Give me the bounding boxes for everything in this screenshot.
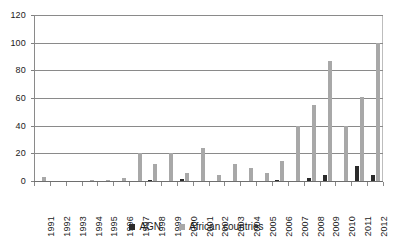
bar-african-countries [265, 173, 269, 181]
bar-group [304, 15, 320, 181]
bars-layer [34, 15, 383, 181]
bar-agn [148, 180, 152, 181]
legend-swatch-icon [179, 224, 185, 230]
bar-agn [323, 175, 327, 181]
bar-african-countries [249, 168, 253, 181]
bar-group [129, 15, 145, 181]
bar-african-countries [169, 153, 173, 181]
chart-legend: AGNAfrican countries [0, 222, 393, 232]
y-tick-label: 20 [16, 149, 26, 158]
y-tick-label: 120 [10, 11, 26, 20]
bar-african-countries [90, 180, 94, 181]
y-tick-label: 100 [10, 38, 26, 47]
bar-african-countries [153, 164, 157, 181]
bar-african-countries [42, 177, 46, 181]
y-axis: 020406080100120 [0, 0, 30, 244]
bar-african-countries [280, 161, 284, 181]
legend-item[interactable]: AGN [129, 222, 161, 232]
bar-african-countries [328, 61, 332, 181]
bar-agn [307, 178, 311, 181]
y-tick-label: 40 [16, 121, 26, 130]
legend-swatch-icon [129, 224, 135, 230]
bar-agn [355, 166, 359, 181]
bar-group [113, 15, 129, 181]
bar-african-countries [185, 173, 189, 181]
bar-group [272, 15, 288, 181]
bar-african-countries [201, 148, 205, 181]
bar-african-countries [233, 164, 237, 181]
bar-group [82, 15, 98, 181]
y-tick-label: 60 [16, 94, 26, 103]
legend-item[interactable]: African countries [179, 222, 263, 232]
y-tick-label: 80 [16, 66, 26, 75]
bar-group [256, 15, 272, 181]
legend-label: AGN [139, 222, 161, 232]
bar-agn [371, 175, 375, 181]
bar-agn [180, 179, 184, 181]
bar-group [193, 15, 209, 181]
bar-chart: 020406080100120 199119921993199419951996… [0, 0, 393, 244]
bar-group [161, 15, 177, 181]
bar-group [288, 15, 304, 181]
bar-african-countries [138, 153, 142, 181]
bar-group [66, 15, 82, 181]
bar-african-countries [217, 175, 221, 181]
plot-area [34, 15, 383, 181]
bar-group [177, 15, 193, 181]
x-axis-labels: 1991199219931994199519961997199819992000… [34, 186, 383, 218]
bar-group [50, 15, 66, 181]
bar-african-countries [376, 43, 380, 181]
bar-group [320, 15, 336, 181]
y-tick-label: 0 [21, 177, 26, 186]
bar-group [97, 15, 113, 181]
bar-african-countries [344, 126, 348, 181]
bar-african-countries [106, 180, 110, 181]
bar-group [351, 15, 367, 181]
bar-agn [275, 180, 279, 181]
bar-african-countries [122, 178, 126, 181]
bar-african-countries [296, 126, 300, 181]
bar-group [145, 15, 161, 181]
bar-group [335, 15, 351, 181]
legend-label: African countries [189, 222, 263, 232]
bar-group [367, 15, 383, 181]
bar-group [240, 15, 256, 181]
x-tick-mark [383, 182, 384, 186]
bar-group [34, 15, 50, 181]
bar-group [209, 15, 225, 181]
bar-african-countries [312, 105, 316, 181]
bar-african-countries [360, 97, 364, 181]
bar-group [224, 15, 240, 181]
